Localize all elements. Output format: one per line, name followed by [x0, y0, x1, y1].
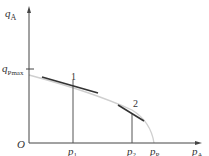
tangent-1 — [42, 77, 98, 93]
pp-label: pP — [149, 145, 160, 156]
point-2-label: 2 — [133, 98, 138, 109]
diagram-canvas: qA qPmax O 1 2 p1 p2 pP pA — [0, 0, 209, 156]
characteristic-curve — [29, 75, 154, 143]
y-axis-label: qA — [5, 7, 17, 22]
p1-label: p1 — [67, 145, 78, 156]
origin-label: O — [17, 138, 25, 150]
x-axis-label: pA — [191, 145, 203, 156]
point-1-label: 1 — [71, 71, 76, 82]
tangent-2 — [118, 105, 144, 121]
y-axis-arrow-icon — [27, 6, 31, 13]
qpmax-label: qPmax — [2, 62, 24, 77]
p2-label: p2 — [126, 145, 137, 156]
